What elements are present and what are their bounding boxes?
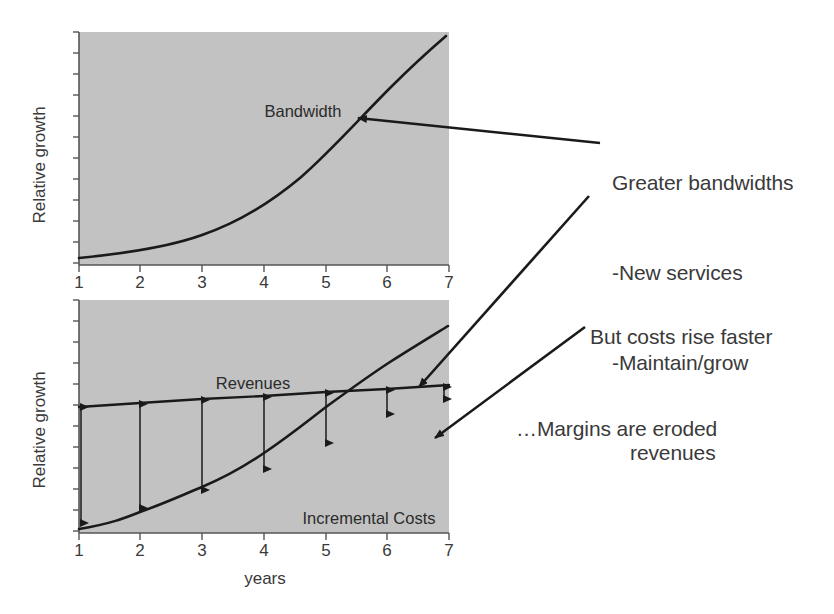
annotation-line: -Maintain/grow — [612, 348, 793, 378]
bandwidth-series-label: Bandwidth — [264, 102, 341, 120]
revenues-costs-y-ticks — [73, 300, 79, 531]
revenues-costs-x-tick-label: 1 — [74, 541, 83, 560]
bandwidth-x-tick-label: 7 — [444, 273, 453, 292]
annotation-costs-rise-faster: But costs rise faster — [590, 322, 772, 352]
bandwidth-x-ticks — [79, 265, 449, 272]
revenues-costs-y-axis-title: Relative growth — [30, 371, 49, 488]
bandwidth-x-tick-label: 6 — [382, 273, 391, 292]
revenues-costs-x-tick-label: 4 — [259, 541, 268, 560]
revenues-costs-x-tick-labels: 1 2 3 4 5 6 7 — [74, 541, 453, 560]
revenues-costs-x-ticks — [79, 533, 449, 540]
bandwidth-x-tick-label: 3 — [197, 273, 206, 292]
bandwidth-y-ticks — [73, 32, 79, 263]
revenues-costs-x-tick-label: 7 — [444, 541, 453, 560]
bandwidth-x-tick-label: 2 — [135, 273, 144, 292]
revenues-costs-x-tick-label: 6 — [382, 541, 391, 560]
annotation-line: -New services — [612, 258, 793, 288]
bandwidth-plot-area — [79, 32, 449, 265]
bandwidth-chart: 1 2 3 4 5 6 7 Relative growth Bandwidth — [30, 32, 454, 292]
revenues-costs-chart: 1 2 3 4 5 6 7 Relative growth years Reve… — [30, 300, 454, 588]
bandwidth-y-axis-title: Relative growth — [30, 106, 49, 223]
bandwidth-x-tick-label: 4 — [259, 273, 268, 292]
bandwidth-x-tick-label: 5 — [321, 273, 330, 292]
revenues-series-label: Revenues — [216, 374, 290, 392]
revenues-costs-x-tick-label: 2 — [135, 541, 144, 560]
revenues-costs-x-tick-label: 3 — [197, 541, 206, 560]
revenues-costs-x-tick-label: 5 — [321, 541, 330, 560]
revenues-costs-x-axis-title: years — [244, 569, 286, 588]
bandwidth-x-tick-labels: 1 2 3 4 5 6 7 — [74, 273, 453, 292]
annotation-line: Greater bandwidths — [612, 168, 793, 198]
incremental-costs-series-label: Incremental Costs — [303, 509, 436, 527]
bandwidth-x-tick-label: 1 — [74, 273, 83, 292]
annotation-margins-eroded: …Margins are eroded — [516, 414, 717, 444]
